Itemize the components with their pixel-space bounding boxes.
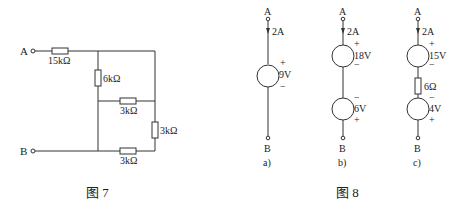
plus-sign: + bbox=[429, 38, 435, 49]
resistor-15k bbox=[52, 48, 68, 54]
current-arrow-icon bbox=[416, 28, 420, 34]
current-label: 2A bbox=[422, 26, 435, 37]
resistor-3k-bottom-label: 3kΩ bbox=[120, 155, 137, 166]
minus-sign: − bbox=[280, 81, 286, 92]
figure-7-caption: 图 7 bbox=[86, 185, 109, 200]
resistor-label: 6Ω bbox=[424, 81, 436, 92]
resistor-3k-right-label: 3kΩ bbox=[160, 125, 177, 136]
source-value: 6V bbox=[354, 103, 367, 114]
voltage-source-9v bbox=[257, 65, 279, 87]
circuit-diagrams: A 15kΩ 6kΩ 3kΩ 3kΩ B 3kΩ 图 7 bbox=[0, 0, 458, 206]
plus-sign: + bbox=[354, 114, 360, 125]
resistor-3k-bottom bbox=[120, 148, 136, 154]
terminal-b-label: B bbox=[339, 143, 346, 154]
terminal-b-label: B bbox=[264, 143, 271, 154]
voltage-source-4v bbox=[407, 98, 429, 120]
minus-sign: − bbox=[429, 59, 435, 70]
figure-8-caption: 图 8 bbox=[336, 185, 359, 200]
figure-7: A 15kΩ 6kΩ 3kΩ 3kΩ B 3kΩ 图 7 bbox=[20, 45, 177, 200]
circuit-8c: A 2A + 15V − 6Ω − 4V + B c) bbox=[407, 6, 447, 169]
terminal-a-node bbox=[31, 49, 35, 53]
plus-sign: + bbox=[280, 57, 286, 68]
source-value: 9V bbox=[279, 69, 292, 80]
sub-label-b: b) bbox=[338, 157, 346, 169]
figure-8: A 2A + 9V − B a) A 2A + 18V − bbox=[257, 6, 447, 200]
plus-sign: + bbox=[354, 38, 360, 49]
terminal-a-label: A bbox=[414, 6, 422, 17]
minus-sign: − bbox=[354, 92, 360, 103]
terminal-b-label: B bbox=[414, 143, 421, 154]
current-label: 2A bbox=[272, 26, 285, 37]
resistor-6ohm bbox=[415, 78, 421, 94]
terminal-a-label: A bbox=[264, 6, 272, 17]
current-label: 2A bbox=[347, 26, 360, 37]
source-value: 4V bbox=[429, 103, 442, 114]
resistor-3k-middle bbox=[120, 98, 136, 104]
resistor-6k bbox=[95, 70, 101, 86]
voltage-source-18v bbox=[332, 45, 354, 67]
voltage-source-6v bbox=[332, 98, 354, 120]
terminal-a-label: A bbox=[20, 45, 28, 57]
terminal-a-label: A bbox=[339, 6, 347, 17]
circuit-8a: A 2A + 9V − B a) bbox=[257, 6, 292, 169]
circuit-8b: A 2A + 18V − − 6V + B b) bbox=[332, 6, 372, 169]
minus-sign: − bbox=[429, 92, 435, 103]
plus-sign: + bbox=[429, 114, 435, 125]
current-arrow-icon bbox=[341, 28, 345, 34]
current-arrow-icon bbox=[266, 28, 270, 34]
resistor-3k-right bbox=[152, 122, 158, 138]
terminal-b-node bbox=[31, 149, 35, 153]
terminal-b-label: B bbox=[20, 145, 27, 157]
resistor-6k-label: 6kΩ bbox=[103, 73, 120, 84]
resistor-15k-label: 15kΩ bbox=[48, 55, 70, 66]
resistor-3k-middle-label: 3kΩ bbox=[120, 105, 137, 116]
sub-label-c: c) bbox=[413, 157, 421, 169]
sub-label-a: a) bbox=[263, 157, 271, 169]
minus-sign: − bbox=[354, 59, 360, 70]
voltage-source-15v bbox=[407, 45, 429, 67]
